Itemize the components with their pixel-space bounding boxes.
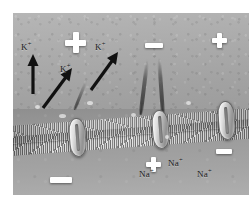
ion-label-sodium: Na+ bbox=[197, 168, 212, 179]
ion-element: K bbox=[95, 42, 102, 52]
channel-pore bbox=[75, 124, 80, 151]
page-margin-right bbox=[249, 0, 251, 211]
minus-charge-symbol bbox=[145, 43, 163, 48]
vesicle-speck bbox=[87, 101, 93, 105]
ion-charge: + bbox=[28, 40, 32, 47]
minus-charge-symbol bbox=[50, 177, 72, 183]
k-efflux-arrow-icon bbox=[89, 49, 121, 91]
ion-charge: + bbox=[179, 156, 183, 163]
page-margin-bottom bbox=[0, 195, 251, 211]
ion-charge: + bbox=[67, 62, 71, 69]
ion-charge: + bbox=[102, 40, 106, 47]
plus-charge-symbol bbox=[212, 33, 227, 48]
ion-element: K bbox=[21, 42, 28, 52]
ion-charge: + bbox=[208, 167, 212, 174]
k-efflux-arrow-icon bbox=[25, 53, 41, 95]
ion-element: Na bbox=[139, 169, 150, 179]
ion-label-potassium: K+ bbox=[21, 41, 32, 52]
channel-pore bbox=[224, 107, 229, 134]
ion-element: Na bbox=[168, 158, 179, 168]
ion-label-sodium: Na+ bbox=[139, 168, 154, 179]
vesicle-speck bbox=[59, 114, 66, 118]
ion-element: Na bbox=[197, 169, 208, 179]
ion-charge: + bbox=[150, 167, 154, 174]
ion-label-potassium: K+ bbox=[95, 41, 106, 52]
vesicle-speck bbox=[165, 135, 169, 139]
channel-pore bbox=[158, 116, 163, 143]
membrane-figure: K+ K+ K+ Na+ Na+ Na+ bbox=[13, 13, 251, 195]
page-margin-top bbox=[0, 0, 251, 13]
ion-label-potassium: K+ bbox=[60, 63, 71, 74]
minus-charge-symbol bbox=[216, 149, 232, 154]
ion-label-sodium: Na+ bbox=[168, 157, 183, 168]
vesicle-speck bbox=[35, 105, 40, 109]
ion-element: K bbox=[60, 64, 67, 74]
page-margin-left bbox=[0, 0, 13, 211]
vesicle-speck bbox=[186, 101, 191, 105]
vesicle-speck bbox=[131, 113, 136, 117]
plus-charge-symbol bbox=[65, 32, 86, 53]
